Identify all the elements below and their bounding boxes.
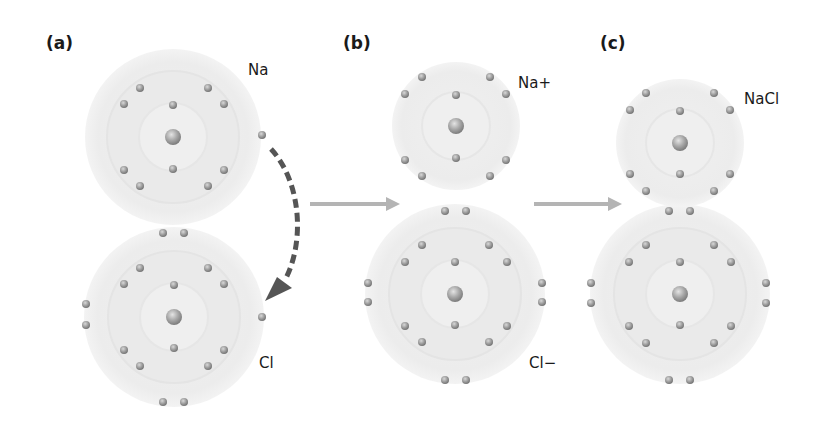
nacl-na-plus xyxy=(616,79,744,207)
valence-electron xyxy=(258,131,266,139)
panel-label-b: (b) xyxy=(343,33,371,53)
ion-na-plus xyxy=(392,62,520,190)
diagram-canvas xyxy=(0,0,832,421)
nacl-cl-minus xyxy=(587,204,770,384)
label-nacl: NaCl xyxy=(744,90,779,108)
atom-na xyxy=(85,49,266,225)
label-na-plus: Na+ xyxy=(518,74,551,92)
step-arrow-a-to-b xyxy=(310,197,400,211)
panel-label-a: (a) xyxy=(46,33,73,53)
label-na: Na xyxy=(248,61,268,79)
nucleus xyxy=(447,286,463,302)
nucleus xyxy=(448,118,464,134)
electron-transfer-arrow xyxy=(265,149,297,301)
nucleus xyxy=(672,286,688,302)
panel-label-c: (c) xyxy=(600,33,626,53)
nucleus xyxy=(166,309,182,325)
label-cl: Cl xyxy=(259,354,274,372)
label-cl-minus: Cl− xyxy=(529,354,556,372)
ionic-bond-diagram: (a) (b) (c) Na Cl Na+ Cl− NaCl xyxy=(0,0,832,421)
nucleus xyxy=(672,135,688,151)
atom-cl xyxy=(82,227,266,407)
nucleus xyxy=(165,129,181,145)
step-arrow-b-to-c xyxy=(534,197,622,211)
ion-cl-minus xyxy=(364,204,546,384)
